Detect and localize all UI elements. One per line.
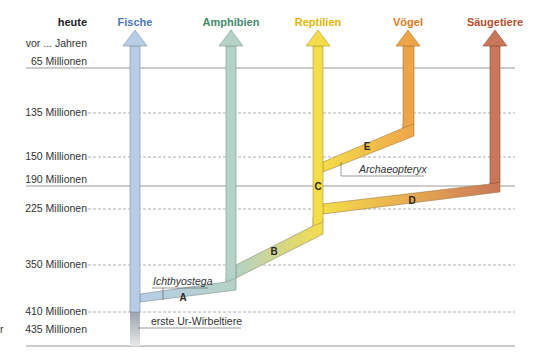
arrowhead-voegel (396, 30, 420, 46)
arrowhead-amphibien (219, 30, 243, 46)
time-label-150: 150 Millionen (25, 150, 87, 162)
time-label-435: 435 Millionen (25, 323, 87, 335)
arrowhead-reptilien (306, 30, 330, 46)
annotation-first-vertebrates: erste Ur-Wirbeltiere (151, 315, 242, 327)
time-axis-labels: heute vor ... Jahren 65 Millionen 135 Mi… (0, 16, 87, 335)
lineage-reptilien (306, 30, 330, 226)
branch-label-a: A (179, 292, 186, 303)
lineage-saeugetiere (483, 30, 507, 184)
class-header-reptilien: Reptilien (295, 16, 342, 28)
branch-label-e: E (364, 141, 371, 152)
arrowhead-saeugetiere (483, 30, 507, 46)
class-header-voegel: Vögel (393, 16, 423, 28)
time-label-350: 350 Millionen (25, 258, 87, 270)
time-label-65: 65 Millionen (31, 55, 87, 67)
root-stem (130, 312, 140, 346)
class-header-amphibien: Amphibien (203, 16, 260, 28)
time-label-410: 410 Millionen (25, 305, 87, 317)
unit-label: vor ... Jahren (26, 37, 87, 49)
class-header-fische: Fische (118, 16, 153, 28)
annotation-archaeopteryx: Archaeopteryx (358, 163, 427, 175)
branch-label-c: C (314, 181, 321, 192)
lineage-fische (123, 30, 147, 312)
branch-label-b: B (270, 246, 277, 257)
branch-label-d: D (408, 195, 415, 206)
time-label-135: 135 Millionen (25, 106, 87, 118)
class-headers: Fische Amphibien Reptilien Vögel Säugeti… (118, 16, 524, 28)
arrowhead-fische (123, 30, 147, 46)
vertebrate-phylogeny-diagram: heute vor ... Jahren 65 Millionen 135 Mi… (0, 0, 547, 361)
time-label-225: 225 Millionen (25, 202, 87, 214)
time-gridlines (26, 68, 515, 346)
class-header-saeugetiere: Säugetiere (467, 16, 523, 28)
branch-b (236, 218, 323, 278)
time-label-190: 190 Millionen (25, 173, 87, 185)
today-label: heute (58, 16, 87, 28)
annotation-ichthyostega: Ichthyostega (153, 275, 213, 287)
margin-fragment: r (0, 323, 4, 335)
